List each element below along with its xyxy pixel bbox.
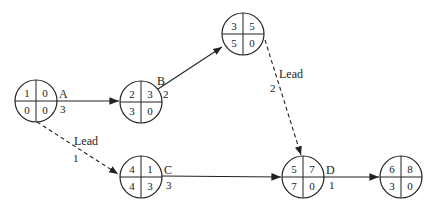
activity-b-duration: 2	[163, 88, 169, 100]
lead-1-label: Lead	[74, 134, 98, 148]
node-6-bl: 3	[389, 180, 395, 192]
activity-d-label: D	[326, 163, 335, 177]
activity-a-duration: 3	[60, 103, 66, 115]
node-3-bl: 5	[231, 37, 237, 49]
node-6: 6 8 3 0	[380, 156, 422, 198]
node-4-tr: 1	[147, 163, 153, 175]
node-3: 3 5 5 0	[222, 13, 264, 55]
lead-arrow-2	[265, 40, 301, 155]
node-4-bl: 4	[129, 180, 135, 192]
activity-c-duration: 3	[166, 179, 172, 191]
activity-b-label: B	[157, 74, 165, 88]
node-1-br: 0	[42, 104, 48, 116]
node-5-bl: 7	[291, 180, 297, 192]
node-4-tl: 4	[129, 163, 135, 175]
activity-d-duration: 1	[329, 179, 335, 191]
node-1-tr: 0	[42, 87, 48, 99]
activity-arrow-c	[162, 176, 281, 177]
node-5-tl: 5	[291, 163, 297, 175]
node-1-tl: 1	[24, 87, 30, 99]
lead-arrow-1	[37, 122, 118, 174]
node-4: 4 1 4 3	[120, 156, 162, 198]
precedence-network-diagram: 1 0 0 0 2 3 3 0 3 5 5 0 4 1 4 3 5 7 7	[0, 0, 441, 210]
node-3-tr: 5	[249, 20, 255, 32]
node-4-br: 3	[147, 180, 153, 192]
node-5: 5 7 7 0	[282, 156, 324, 198]
node-1-bl: 0	[24, 104, 30, 116]
activity-arrow-b	[158, 47, 222, 89]
lead-2-label: Lead	[279, 67, 303, 81]
node-6-tr: 8	[407, 163, 413, 175]
activity-c-label: C	[164, 163, 172, 177]
node-6-tl: 6	[389, 163, 395, 175]
node-3-br: 0	[249, 37, 255, 49]
node-1: 1 0 0 0	[15, 80, 57, 122]
node-2-tr: 3	[147, 88, 153, 100]
lead-1-value: 1	[73, 152, 79, 164]
node-5-br: 0	[309, 180, 315, 192]
activity-a-label: A	[59, 87, 68, 101]
node-5-tr: 7	[309, 163, 315, 175]
node-2-bl: 3	[129, 105, 135, 117]
node-6-br: 0	[407, 180, 413, 192]
node-3-tl: 3	[231, 20, 237, 32]
node-2-tl: 2	[129, 88, 135, 100]
node-2: 2 3 3 0	[120, 81, 162, 123]
node-2-br: 0	[147, 105, 153, 117]
lead-2-value: 2	[270, 82, 276, 94]
